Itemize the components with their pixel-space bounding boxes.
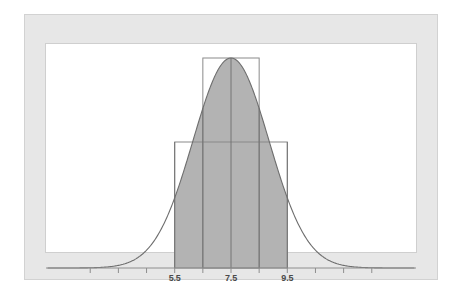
x-axis-label-7-5: 7.5 — [225, 273, 237, 283]
figure-container: 5.57.59.5 — [0, 0, 464, 303]
x-axis-label-5-5: 5.5 — [169, 273, 181, 283]
chart-svg-layer — [0, 0, 464, 303]
x-axis-label-9-5: 9.5 — [281, 273, 293, 283]
